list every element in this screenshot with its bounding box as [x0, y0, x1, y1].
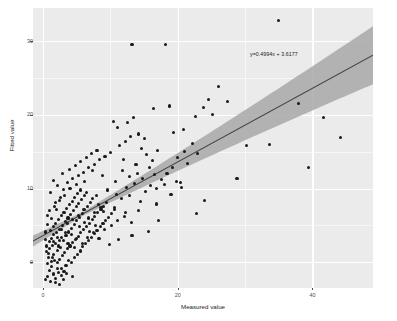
data-point	[46, 223, 49, 226]
data-point	[165, 172, 168, 175]
data-point	[124, 140, 127, 143]
data-point	[112, 120, 115, 123]
data-point	[82, 208, 85, 211]
data-point	[55, 208, 58, 211]
data-point	[182, 128, 185, 131]
regression-line	[33, 55, 373, 241]
data-point	[169, 193, 172, 196]
data-point	[73, 256, 76, 259]
data-point	[84, 242, 87, 245]
y-axis-title: Fitted value	[8, 106, 15, 166]
data-point	[52, 240, 55, 243]
data-point	[79, 188, 82, 191]
x-axis-title: Measured value	[33, 303, 373, 310]
data-point	[47, 252, 50, 255]
y-tick-label: 10	[27, 185, 33, 191]
data-point	[95, 229, 98, 232]
data-point	[235, 177, 238, 180]
data-point	[81, 212, 84, 215]
data-point	[139, 200, 142, 203]
data-point	[73, 223, 76, 226]
x-tick-label: 20	[163, 292, 193, 298]
data-point	[106, 188, 109, 191]
data-point	[147, 230, 150, 233]
data-point	[75, 237, 78, 240]
data-point	[186, 162, 189, 165]
data-point	[217, 85, 220, 88]
x-tick-label: 40	[297, 292, 327, 298]
x-tick-label: 0	[28, 292, 58, 298]
data-point	[57, 244, 60, 247]
data-point	[64, 264, 67, 267]
data-point	[109, 151, 112, 154]
regression-equation-annotation: y=0.4994x + 3.6177	[250, 51, 298, 57]
data-point	[93, 163, 96, 166]
data-point	[65, 272, 68, 275]
y-tick-label: 0	[30, 259, 33, 265]
data-point	[88, 230, 91, 233]
y-tick-label: 30	[27, 38, 33, 44]
data-point	[53, 205, 56, 208]
data-point	[101, 174, 104, 177]
data-point	[155, 202, 158, 205]
data-point	[91, 218, 94, 221]
data-point	[110, 224, 113, 227]
data-point	[76, 253, 79, 256]
data-point	[95, 194, 98, 197]
data-point	[99, 206, 102, 209]
data-point	[56, 261, 59, 264]
data-point	[97, 237, 100, 240]
data-point	[66, 242, 69, 245]
data-point	[86, 205, 89, 208]
data-point	[77, 174, 80, 177]
data-point	[48, 269, 51, 272]
data-point	[202, 106, 205, 109]
data-point	[70, 227, 73, 230]
data-point	[130, 234, 133, 237]
data-point	[50, 260, 53, 263]
data-point	[62, 239, 65, 242]
data-point	[194, 115, 197, 118]
data-point	[66, 216, 69, 219]
data-point	[103, 155, 106, 158]
data-point	[144, 190, 147, 193]
data-point	[77, 214, 80, 217]
data-point	[62, 188, 65, 191]
data-point	[175, 180, 178, 183]
plot-panel	[33, 8, 373, 288]
data-point	[168, 104, 171, 107]
data-point	[44, 230, 47, 233]
data-point	[60, 274, 63, 277]
scatter-plot-figure: y=0.4994x + 3.6177 010203002040 Measured…	[0, 0, 397, 321]
data-point	[137, 132, 140, 135]
data-point	[86, 236, 89, 239]
data-point	[115, 193, 118, 196]
data-point	[116, 126, 119, 129]
data-point	[64, 234, 67, 237]
data-point	[102, 205, 105, 208]
data-point	[62, 211, 65, 214]
data-point	[68, 187, 71, 190]
data-point	[52, 272, 55, 275]
data-point	[171, 166, 174, 169]
x-tick-mark	[312, 288, 313, 290]
data-point	[136, 172, 139, 175]
data-point	[71, 200, 74, 203]
data-point	[93, 211, 96, 214]
x-tick-mark	[178, 288, 179, 290]
data-point	[49, 280, 52, 283]
data-point	[75, 183, 78, 186]
data-point	[125, 186, 128, 189]
data-point	[95, 149, 98, 152]
data-point	[68, 244, 71, 247]
data-point	[45, 244, 48, 247]
data-point	[130, 221, 133, 224]
data-point	[85, 225, 88, 228]
data-point	[88, 222, 91, 225]
data-point	[56, 236, 59, 239]
y-tick-label: 20	[27, 111, 33, 117]
data-point	[58, 199, 61, 202]
data-point	[117, 238, 120, 241]
data-point	[48, 240, 51, 243]
data-point	[108, 243, 111, 246]
